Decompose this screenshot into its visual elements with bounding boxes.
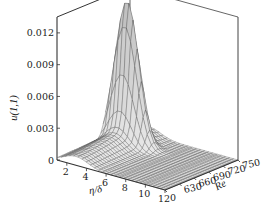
x-tick-label: 6: [102, 177, 108, 188]
surface-mesh: [57, 3, 238, 190]
x-tick-label: 12: [158, 193, 170, 204]
z-tick-label: 0.006: [27, 91, 54, 102]
x-tick-label: 2: [63, 166, 69, 177]
x-tick-label: 8: [122, 182, 128, 193]
z-axis-label: u(1,1): [8, 95, 20, 121]
z-tick-label: 0.012: [27, 27, 54, 38]
chart-container: 00.0030.0060.0090.0122468101206306606907…: [0, 0, 270, 209]
y-tick-label: 0: [170, 192, 176, 203]
z-tick-label: 0: [48, 155, 54, 166]
surface-plot: 00.0030.0060.0090.0122468101206306606907…: [0, 0, 270, 209]
x-tick-label: 4: [82, 171, 88, 182]
x-tick-label: 10: [138, 188, 150, 199]
y-tick-label: 750: [241, 156, 261, 171]
z-tick-label: 0.003: [27, 123, 54, 134]
z-tick-label: 0.009: [27, 59, 54, 70]
